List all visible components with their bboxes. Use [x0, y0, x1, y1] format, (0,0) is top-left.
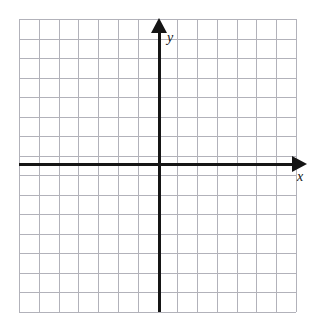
grid-line-horizontal [19, 312, 296, 313]
y-axis-arrow-icon [151, 18, 167, 33]
coordinate-grid-figure: x y [0, 0, 316, 334]
x-axis-label: x [297, 170, 303, 184]
y-axis-label: y [167, 31, 173, 45]
y-axis-line [158, 33, 161, 312]
x-axis-line [19, 163, 292, 166]
grid-area: x y [19, 19, 296, 312]
